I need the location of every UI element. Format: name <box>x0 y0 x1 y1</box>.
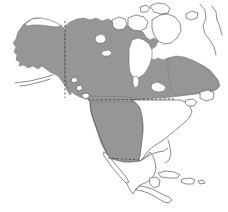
island-arctic-small-b <box>186 11 198 20</box>
greenland-west-edge <box>200 4 216 55</box>
range-alaska <box>13 18 72 95</box>
island-banks <box>112 17 127 30</box>
greenland-coast-detail <box>212 6 222 35</box>
range-shading-group <box>13 18 220 162</box>
range-shading-connector <box>88 96 134 102</box>
island-hispaniola <box>181 178 195 184</box>
outline-central-america <box>136 186 172 203</box>
alaska-north-slope <box>25 18 62 27</box>
range-quebec-labrador <box>168 56 219 95</box>
island-nova-scotia <box>185 99 197 106</box>
island-victoria <box>128 15 148 31</box>
island-cuba <box>158 171 180 178</box>
island-arctic-small-a <box>140 5 150 12</box>
outline-yucatan <box>150 177 160 188</box>
north-america-map: North America species distribution map O… <box>0 0 228 212</box>
coast-florida <box>165 140 171 163</box>
distribution-map-figure: North America species distribution map O… <box>0 0 228 212</box>
island-ellesmere <box>150 3 170 14</box>
island-newfoundland <box>200 90 214 101</box>
island-lesser-antilles <box>198 180 205 184</box>
coast-aleutian-chain <box>15 75 53 83</box>
lake-winnipeg-water <box>133 76 139 88</box>
